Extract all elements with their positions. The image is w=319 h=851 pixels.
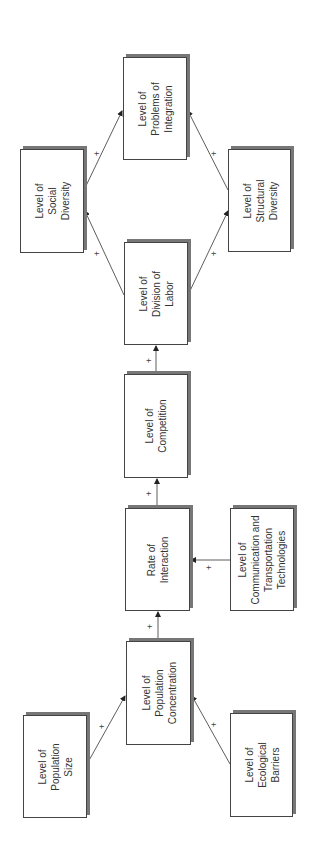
node-population-concentration: Level of Population Concentration xyxy=(126,641,191,745)
node-division-of-labor: Level of Division of Labor xyxy=(124,242,188,345)
node-label: Level of Population Concentration xyxy=(139,638,178,748)
sign-plus: + xyxy=(210,251,219,256)
node-label: Level of Competition xyxy=(143,371,169,481)
node-problems-of-integration: Level of Problems of Integration xyxy=(123,57,187,160)
node-communication-transportation: Level of Communication and Transportatio… xyxy=(230,508,294,611)
edge-division-to-social-diversity xyxy=(85,211,124,295)
node-label: Level of Population Size xyxy=(36,712,75,822)
node-label: Rate of Interaction xyxy=(145,505,171,615)
causal-diagram: + + + + + + + + + + Level of Population … xyxy=(0,0,319,851)
edge-division-to-structural-diversity xyxy=(188,211,228,295)
sign-plus: + xyxy=(146,624,155,629)
edge-population-size-to-concentration xyxy=(87,696,125,764)
sign-plus: + xyxy=(205,565,214,570)
edge-structural-diversity-to-integration xyxy=(188,111,228,190)
node-rate-of-interaction: Rate of Interaction xyxy=(125,508,190,611)
sign-plus: + xyxy=(145,491,154,496)
sign-plus: + xyxy=(210,151,219,156)
node-label: Level of Ecological Barriers xyxy=(242,710,281,820)
sign-plus: + xyxy=(145,358,154,363)
node-social-diversity: Level of Social Diversity xyxy=(20,149,84,253)
node-label: Level of Social Diversity xyxy=(33,146,72,256)
edge-social-diversity-to-integration xyxy=(84,111,122,190)
sign-plus: + xyxy=(93,151,102,156)
sign-plus: + xyxy=(93,251,102,256)
node-competition: Level of Competition xyxy=(124,374,188,478)
sign-plus: + xyxy=(210,722,219,727)
node-population-size: Level of Population Size xyxy=(23,715,87,818)
node-label: Level of Structural Diversity xyxy=(240,146,279,256)
edge-ecological-barriers-to-concentration xyxy=(192,696,230,764)
node-ecological-barriers: Level of Ecological Barriers xyxy=(230,713,293,817)
node-label: Level of Problems of Integration xyxy=(136,54,175,164)
sign-plus: + xyxy=(98,724,107,729)
node-label: Level of Division of Labor xyxy=(137,239,176,349)
node-structural-diversity: Level of Structural Diversity xyxy=(228,149,291,252)
node-label: Level of Communication and Transportatio… xyxy=(236,505,288,615)
